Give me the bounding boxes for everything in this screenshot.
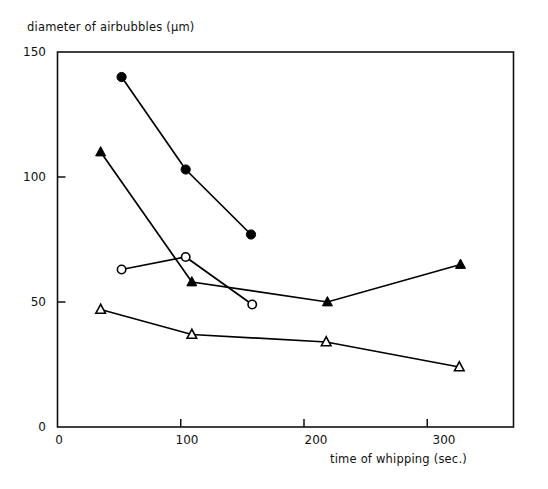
series-line-filled-triangle-series — [101, 152, 461, 302]
series-filled-triangle-series — [96, 147, 466, 306]
marker-filled-triangle-1-3 — [456, 259, 466, 268]
marker-open-circle-2-1 — [181, 253, 189, 261]
data-series-group — [96, 72, 466, 370]
marker-open-circle-2-2 — [248, 300, 256, 308]
series-line-open-circle-series — [122, 257, 253, 305]
marker-filled-triangle-1-0 — [96, 147, 106, 156]
marker-open-triangle-3-0 — [96, 304, 106, 313]
axis-ticks — [58, 177, 428, 427]
series-line-open-triangle-series — [101, 310, 460, 368]
marker-filled-circle-0-2 — [246, 230, 255, 239]
series-open-circle-series — [117, 253, 256, 309]
series-filled-circle-series — [117, 72, 256, 239]
plot-area — [0, 0, 548, 489]
marker-filled-circle-0-0 — [117, 72, 126, 81]
marker-filled-circle-0-1 — [181, 165, 190, 174]
axis-frame — [58, 52, 514, 427]
axis-frame-rect — [58, 52, 514, 427]
line-chart: diameter of airbubbles (µm) 150 100 50 0… — [0, 0, 548, 489]
marker-open-circle-2-0 — [117, 265, 125, 273]
series-open-triangle-series — [96, 304, 464, 370]
